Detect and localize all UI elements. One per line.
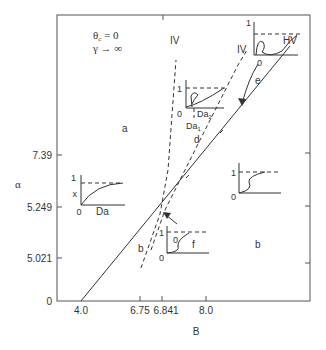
svg-text:Da: Da (96, 206, 109, 217)
region-b-small: b (138, 243, 144, 254)
svg-text:1: 1 (71, 173, 76, 183)
x-tick-8.0: 8.0 (199, 305, 213, 316)
svg-text:Da1: Da1 (186, 121, 202, 132)
svg-text:0: 0 (231, 192, 236, 202)
svg-text:1: 1 (231, 168, 236, 178)
phase-diagram: 7.39 5.249 5.021 0 α 4.0 6.75 6.841 8.0 … (0, 0, 326, 350)
region-b: b (255, 239, 261, 250)
plot-frame (57, 15, 310, 301)
condition-gamma: γ → ∞ (92, 42, 122, 54)
svg-text:1: 1 (159, 228, 164, 238)
svg-text:0: 0 (177, 109, 182, 119)
condition-theta: θc = 0 (93, 29, 119, 43)
svg-text:0: 0 (257, 58, 262, 68)
inset-right: 1 0 (231, 163, 281, 202)
y-tick-5.249: 5.249 (27, 202, 52, 213)
svg-text:1: 1 (177, 84, 182, 94)
region-e: e (255, 75, 261, 86)
y-tick-5.021: 5.021 (27, 253, 52, 264)
x-axis-ticks (140, 296, 206, 301)
svg-text:1: 1 (246, 18, 251, 28)
x-tick-6.841: 6.841 (153, 305, 178, 316)
svg-text:Da2: Da2 (197, 109, 213, 120)
y-axis-label: α (15, 178, 21, 190)
y-tick-7.39: 7.39 (33, 150, 53, 161)
x-axis-label: B (193, 326, 200, 337)
region-f: f (192, 239, 195, 250)
inset-bottom: 1 0 0 f (159, 226, 209, 263)
region-a: a (122, 123, 128, 134)
svg-text:0: 0 (159, 253, 164, 263)
x-tick-6.75: 6.75 (130, 305, 150, 316)
iv-label-right: IV (237, 44, 247, 55)
inset-middle: 1 0 Da2 Da1 (177, 80, 226, 132)
x-tick-4.0: 4.0 (74, 305, 88, 316)
region-d: d (194, 134, 200, 145)
inset-left: 1 x 0 Da (71, 173, 125, 217)
svg-text:0: 0 (76, 207, 81, 217)
y-tick-0: 0 (46, 296, 52, 307)
y-axis-ticks (57, 153, 310, 263)
iv-curve-right (151, 50, 247, 250)
svg-text:0: 0 (173, 235, 178, 245)
iv-label-left: IV (170, 35, 180, 46)
svg-text:x: x (73, 189, 78, 199)
